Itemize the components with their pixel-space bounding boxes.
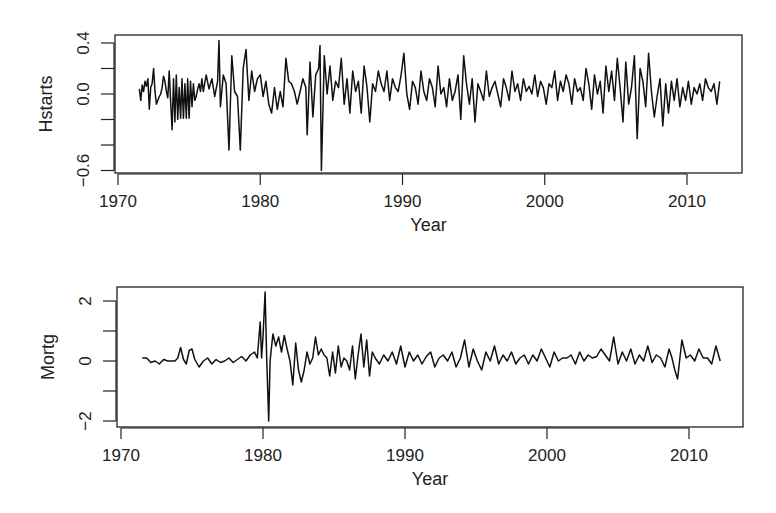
x-tick-label: 2000 <box>526 192 564 211</box>
y-tick-label: 0.4 <box>74 31 93 55</box>
y-tick-label: −0.6 <box>74 154 93 188</box>
x-axis-label: Year <box>412 469 448 489</box>
x-axis: 19701980199020002010Year <box>99 174 706 235</box>
x-tick-label: 1970 <box>102 446 140 465</box>
x-tick-label: 1980 <box>241 192 279 211</box>
x-tick-label: 1970 <box>99 192 137 211</box>
x-tick-label: 2010 <box>670 446 708 465</box>
y-tick-label: 2 <box>76 296 95 305</box>
y-axis: 20−2Mortg <box>38 296 116 430</box>
y-axis-label: Mortg <box>38 334 58 380</box>
x-axis-label: Year <box>410 215 446 235</box>
figure: 19701980199020002010Year0.40.0−0.6Hstart… <box>0 0 776 513</box>
series-line-mortg <box>142 292 720 421</box>
mortg-panel: 19701980199020002010Year20−2Mortg <box>38 287 743 489</box>
x-tick-label: 1990 <box>386 446 424 465</box>
plot-frame <box>117 287 743 427</box>
x-axis: 19701980199020002010Year <box>102 428 708 489</box>
x-tick-label: 2010 <box>668 192 706 211</box>
x-tick-label: 2000 <box>528 446 566 465</box>
y-tick-label: 0 <box>76 356 95 365</box>
x-tick-label: 1980 <box>244 446 282 465</box>
series-line-hstarts <box>139 41 719 171</box>
y-axis: 0.40.0−0.6Hstarts <box>36 31 114 187</box>
y-axis-label: Hstarts <box>36 75 56 132</box>
x-tick-label: 1990 <box>384 192 422 211</box>
y-tick-label: 0.0 <box>74 82 93 106</box>
hstarts-panel: 19701980199020002010Year0.40.0−0.6Hstart… <box>36 31 742 235</box>
y-tick-label: −2 <box>76 411 95 430</box>
